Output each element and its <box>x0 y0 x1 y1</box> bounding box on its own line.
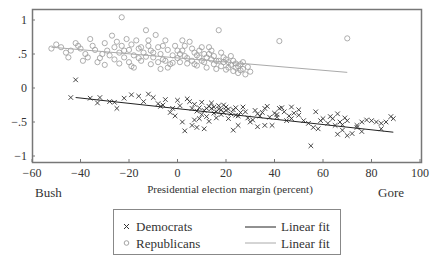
plot-area <box>33 10 422 163</box>
y-tick-label: −1 <box>14 149 27 163</box>
x-tick-label: 100 <box>411 166 429 180</box>
x-tick-label: −60 <box>23 166 42 180</box>
scatter-chart: −60−40−20020406080100 1.50−.5−1 Presiden… <box>0 0 441 267</box>
bush-label: Bush <box>35 185 62 200</box>
y-tick-label: 1 <box>21 13 27 27</box>
x-tick-label: 20 <box>220 166 232 180</box>
y-tick-label: .5 <box>18 47 27 61</box>
x-axis-label: Presidential election margin (percent) <box>147 183 313 196</box>
y-tick-label: −.5 <box>11 115 27 129</box>
x-tick-label: 40 <box>269 166 281 180</box>
legend: Democrats Linear fit Republicans Linear … <box>114 210 341 255</box>
plot-frame <box>33 10 422 163</box>
y-tick-label: 0 <box>21 81 27 95</box>
x-tick-label: −40 <box>71 166 90 180</box>
x-tick-label: 60 <box>317 166 329 180</box>
legend-democrats-label: Democrats <box>136 219 192 234</box>
legend-rep-fit-label: Linear fit <box>281 236 330 251</box>
legend-dem-fit-label: Linear fit <box>281 219 330 234</box>
x-tick-label: 0 <box>175 166 181 180</box>
legend-republicans-label: Republicans <box>136 236 200 251</box>
x-tick-label: −20 <box>120 166 139 180</box>
y-axis: 1.50−.5−1 <box>11 13 35 163</box>
x-tick-label: 80 <box>366 166 378 180</box>
gore-label: Gore <box>378 185 404 200</box>
